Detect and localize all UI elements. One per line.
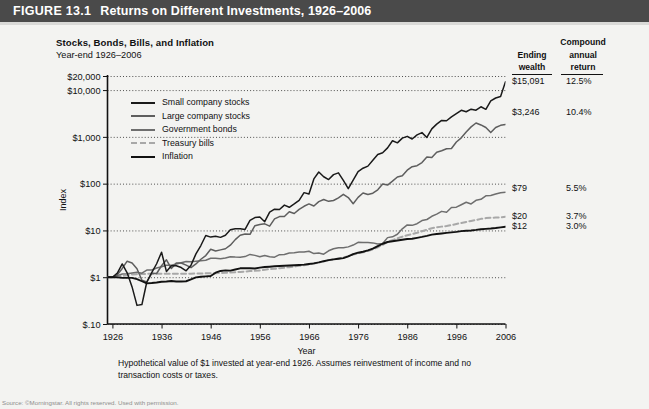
legend-label: Small company stocks (162, 96, 250, 110)
x-tick-label: 1996 (447, 332, 467, 342)
legend-label: Large company stocks (162, 110, 250, 124)
chart-title: Stocks, Bonds, Bills, and Inflation (56, 37, 214, 48)
y-tick-label: $.10 (83, 320, 101, 330)
legend-swatch-icon (131, 156, 155, 158)
annotation-rule-compound-return (561, 74, 603, 75)
legend-swatch-icon (131, 142, 155, 144)
legend-item: Large company stocks (131, 110, 250, 124)
compound-return-value: 10.4% (566, 107, 592, 117)
annotation-rule-ending-wealth (512, 74, 552, 75)
legend-item: Treasury bills (131, 137, 250, 151)
legend-swatch-icon (131, 115, 155, 117)
x-axis-title: Year (297, 346, 315, 356)
figure-container: FIGURE 13.1 Returns on Different Investm… (0, 0, 649, 409)
y-tick-label: $20,000 (67, 72, 100, 82)
ending-wealth-value: $3,246 (512, 107, 540, 117)
figure-title: Returns on Different Investments, 1926–2… (100, 4, 371, 18)
legend-label: Treasury bills (162, 137, 214, 151)
legend-label: Government bonds (162, 123, 237, 137)
source-credit: Source: ©Morningstar. All rights reserve… (2, 399, 179, 406)
legend-swatch-icon (131, 129, 155, 131)
x-tick-label: 1976 (348, 332, 368, 342)
x-tick-label: 1946 (201, 332, 221, 342)
ending-wealth-value: $12 (512, 221, 527, 231)
y-tick-label: $10,000 (67, 86, 100, 96)
legend-label: Inflation (162, 150, 193, 164)
compound-return-value: 3.7% (566, 211, 587, 221)
annotation-header-compound-2: annual (558, 50, 608, 60)
ending-wealth-value: $79 (512, 183, 527, 193)
series-line (108, 217, 506, 278)
legend-item: Inflation (131, 150, 250, 164)
figure-header-bar: FIGURE 13.1 Returns on Different Investm… (0, 0, 649, 22)
annotation-header-compound-3: return (558, 62, 608, 72)
x-tick-label: 1936 (152, 332, 172, 342)
legend-item: Small company stocks (131, 96, 250, 110)
chart-subtitle: Year-end 1926–2006 (56, 50, 142, 60)
chart-legend: Small company stocksLarge company stocks… (131, 96, 250, 164)
series-line (108, 227, 506, 284)
x-tick-label: 2006 (496, 332, 516, 342)
annotation-header-ending-1: Ending (509, 50, 555, 60)
ending-wealth-value: $15,091 (512, 76, 545, 86)
y-tick-label: $1,000 (72, 133, 100, 143)
legend-item: Government bonds (131, 123, 250, 137)
x-tick-label: 1956 (250, 332, 270, 342)
y-tick-label: $10 (85, 226, 100, 236)
figure-number: FIGURE 13.1 (13, 4, 91, 18)
compound-return-value: 3.0% (566, 221, 587, 231)
ending-wealth-value: $20 (512, 211, 527, 221)
x-tick-label: 1926 (103, 332, 123, 342)
chart-footnote: Hypothetical value of $1 invested at yea… (118, 357, 478, 382)
annotation-header-ending-2: wealth (509, 62, 555, 72)
y-tick-label: $1 (90, 273, 100, 283)
y-tick-label: $100 (80, 179, 100, 189)
x-tick-label: 1966 (299, 332, 319, 342)
annotation-header-compound-1: Compound (558, 37, 608, 47)
compound-return-value: 5.5% (566, 183, 587, 193)
compound-return-value: 12.5% (566, 76, 592, 86)
series-line (108, 192, 506, 277)
y-axis-title: Index (58, 188, 68, 211)
x-tick-label: 1986 (398, 332, 418, 342)
legend-swatch-icon (131, 102, 155, 104)
